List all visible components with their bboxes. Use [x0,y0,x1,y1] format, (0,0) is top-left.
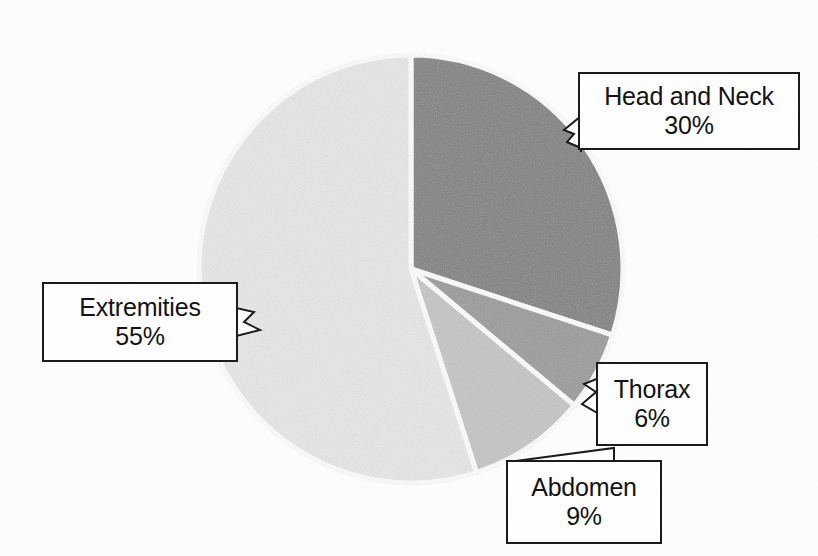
callout-label-extremities: Extremities [79,293,200,323]
callout-label-thorax: Thorax [614,375,691,405]
callout-thorax: Thorax 6% [596,362,708,446]
callout-abdomen: Abdomen 9% [506,460,662,544]
callout-value-head-and-neck: 30% [664,111,713,141]
callout-extremities: Extremities 55% [42,282,238,362]
callout-label-head-and-neck: Head and Neck [604,82,774,112]
callout-label-abdomen: Abdomen [531,473,637,503]
callout-pointer-extremities [232,286,280,360]
callout-value-abdomen: 9% [566,502,602,532]
callout-head-and-neck: Head and Neck 30% [578,72,800,150]
callout-value-thorax: 6% [634,404,670,434]
pie-chart-figure: Head and Neck 30% Extremities 55% Thorax… [0,0,818,556]
callout-value-extremities: 55% [115,322,164,352]
